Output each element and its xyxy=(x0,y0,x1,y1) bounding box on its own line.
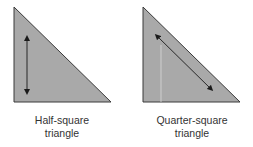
caption-line: Half-square xyxy=(2,114,122,127)
half-square-caption: Half-square triangle xyxy=(2,114,122,140)
caption-line: triangle xyxy=(132,127,252,140)
quarter-square-triangle-shape xyxy=(143,7,240,102)
half-square-triangle-shape xyxy=(14,7,111,102)
caption-line: triangle xyxy=(2,127,122,140)
quarter-square-caption: Quarter-square triangle xyxy=(132,114,252,140)
caption-line: Quarter-square xyxy=(132,114,252,127)
